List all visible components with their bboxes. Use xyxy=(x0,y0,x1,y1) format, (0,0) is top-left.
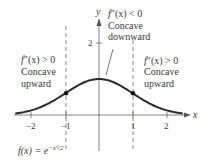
x-axis-label: x xyxy=(192,109,198,120)
inflection-point-left xyxy=(64,91,68,95)
annotation-right: f″(x) > 0 Concave upward xyxy=(144,55,180,89)
y-axis-arrow-icon xyxy=(97,18,102,26)
svg-text:f(x) = e−x²/2: f(x) = e−x²/2 xyxy=(18,144,64,157)
svg-text:f″(x) < 0: f″(x) < 0 xyxy=(108,8,142,20)
svg-text:Concave: Concave xyxy=(21,66,57,77)
x-tick-label-neg1: −1 xyxy=(61,121,71,131)
svg-text:upward: upward xyxy=(21,78,51,89)
y-axis-label: y xyxy=(95,6,101,17)
svg-text:f″(x) > 0: f″(x) > 0 xyxy=(21,54,55,66)
annotation-left: f″(x) > 0 Concave upward xyxy=(21,54,57,89)
x-axis-arrow-icon xyxy=(184,113,191,118)
chart-canvas: x y −2 −1 1 2 2 f″(x) > 0 Concave upward… xyxy=(0,0,208,162)
y-tick-label-2: 2 xyxy=(88,38,93,48)
function-formula: f(x) = e−x²/2 xyxy=(18,144,64,157)
annotation-middle: f″(x) < 0 Concave downward xyxy=(108,8,150,42)
inflection-point-right xyxy=(131,91,135,95)
annotation-pointer xyxy=(106,49,113,75)
x-tick-label-1: 1 xyxy=(131,121,136,131)
svg-text:Concave: Concave xyxy=(144,66,180,77)
x-tick-label-neg2: −2 xyxy=(26,121,36,131)
x-tick-label-2: 2 xyxy=(164,121,169,131)
svg-text:upward: upward xyxy=(144,78,174,89)
svg-text:Concave: Concave xyxy=(108,20,144,31)
svg-text:downward: downward xyxy=(108,31,150,42)
